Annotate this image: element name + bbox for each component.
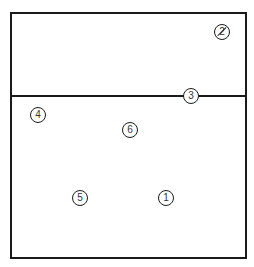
player-4: 4: [30, 107, 46, 123]
player-5: 5: [72, 190, 88, 206]
player-3: 3: [183, 88, 199, 104]
player-number: 2: [219, 27, 225, 37]
player-number: 5: [77, 193, 83, 203]
net-line: [10, 95, 247, 97]
player-number: 1: [163, 193, 169, 203]
player-2: 2: [214, 24, 230, 40]
player-1: 1: [158, 190, 174, 206]
player-number: 6: [127, 125, 133, 135]
player-6: 6: [122, 122, 138, 138]
player-number: 4: [35, 110, 41, 120]
player-number: 3: [188, 91, 194, 101]
